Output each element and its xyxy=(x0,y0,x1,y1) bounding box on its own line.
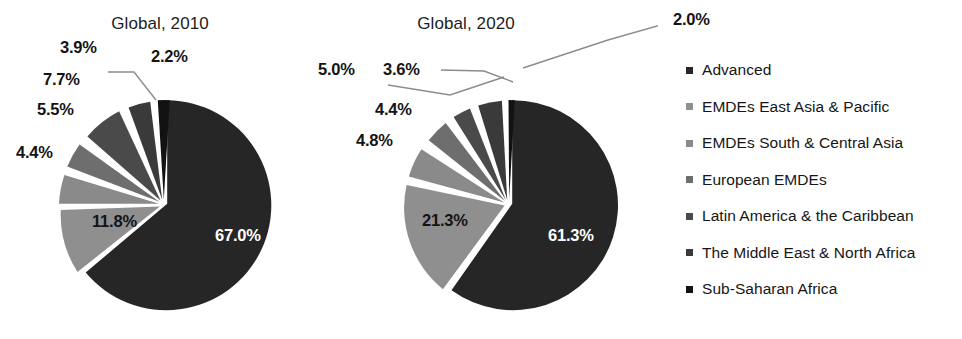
legend-label: The Middle East & North Africa xyxy=(702,244,915,262)
legend-item-european-emdes[interactable]: European EMDEs xyxy=(686,162,962,199)
legend-swatch-icon xyxy=(686,67,693,74)
pct-advanced-2020: 61.3% xyxy=(548,226,594,245)
pct-latin-america-2010: 7.7% xyxy=(43,70,80,89)
figure-canvas: Global, 2010 xyxy=(0,0,962,339)
legend-swatch-icon xyxy=(686,176,693,183)
pct-south-central-asia-2010: 4.4% xyxy=(16,143,53,162)
pct-advanced-2010: 67.0% xyxy=(215,226,261,245)
pie-2020-svg xyxy=(318,0,658,339)
legend-item-latin-america-caribbean[interactable]: Latin America & the Caribbean xyxy=(686,198,962,235)
pct-latin-america-2020: 3.6% xyxy=(383,60,420,79)
pie-2020-graphic xyxy=(318,0,658,339)
legend-swatch-icon xyxy=(686,213,693,220)
legend-swatch-icon xyxy=(686,140,693,147)
legend: Advanced EMDEs East Asia & Pacific EMDEs… xyxy=(686,52,962,308)
legend-label: EMDEs East Asia & Pacific xyxy=(702,98,889,116)
legend-swatch-icon xyxy=(686,286,693,293)
leader-line-latin-america-2020 xyxy=(441,70,513,82)
pct-middle-east-2020: 5.0% xyxy=(318,60,355,79)
legend-item-emdes-south-central-asia[interactable]: EMDEs South & Central Asia xyxy=(686,125,962,162)
legend-item-emdes-east-asia-pacific[interactable]: EMDEs East Asia & Pacific xyxy=(686,89,962,126)
pct-east-asia-2020: 21.3% xyxy=(422,211,468,230)
pct-middle-east-2010: 3.9% xyxy=(60,38,97,57)
pct-european-2020: 4.4% xyxy=(375,100,412,119)
pie-chart-2020: Global, 2020 xyxy=(318,0,658,339)
pct-south-central-asia-2020: 4.8% xyxy=(356,131,393,150)
leader-line-sub-saharan-2020 xyxy=(523,22,658,68)
pct-sub-saharan-2020: 2.0% xyxy=(673,10,710,29)
legend-label: EMDEs South & Central Asia xyxy=(702,134,903,152)
legend-label: European EMDEs xyxy=(702,171,827,189)
legend-item-middle-east-north-africa[interactable]: The Middle East & North Africa xyxy=(686,235,962,272)
legend-label: Latin America & the Caribbean xyxy=(702,207,914,225)
legend-item-sub-saharan-africa[interactable]: Sub-Saharan Africa xyxy=(686,271,962,308)
legend-item-advanced[interactable]: Advanced xyxy=(686,52,962,89)
pie-chart-2010: Global, 2010 xyxy=(0,0,320,339)
legend-swatch-icon xyxy=(686,103,693,110)
leader-line-middle-east-2010 xyxy=(108,72,156,100)
legend-swatch-icon xyxy=(686,249,693,256)
legend-label: Advanced xyxy=(702,61,771,79)
leader-line-middle-east-2020 xyxy=(388,77,504,95)
pct-east-asia-2010: 11.8% xyxy=(92,212,137,231)
pct-sub-saharan-2010: 2.2% xyxy=(151,47,188,66)
pct-european-2010: 5.5% xyxy=(37,100,74,119)
legend-label: Sub-Saharan Africa xyxy=(702,280,837,298)
